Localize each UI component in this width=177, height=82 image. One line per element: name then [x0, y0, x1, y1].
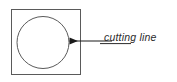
diagram-svg: cutting line	[0, 0, 177, 82]
cut-circle	[17, 17, 69, 69]
diagram-canvas: cutting line	[0, 0, 177, 82]
workpiece-square	[12, 10, 81, 75]
cutting-line-label: cutting line	[104, 31, 157, 43]
